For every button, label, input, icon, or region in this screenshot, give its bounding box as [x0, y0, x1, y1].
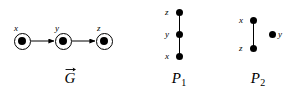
panel-graph-g: x y z G — [0, 0, 140, 99]
caption-poset-p2: P2 — [218, 71, 298, 88]
poset-p2-label-y: y — [278, 30, 282, 39]
poset-p1-node-x — [176, 53, 183, 60]
poset-p2-chain-line — [253, 20, 254, 48]
poset-p2-node-z — [250, 45, 257, 52]
caption-poset-p1-letter: P — [172, 70, 181, 86]
poset-p1-label-z: z — [165, 8, 169, 17]
caption-poset-p1: P1 — [140, 71, 218, 88]
poset-p1-label-x: x — [165, 52, 169, 61]
poset-p1-node-y — [176, 31, 183, 38]
caption-poset-p2-letter: P — [251, 70, 260, 86]
panel-poset-p1: z y x P1 — [140, 0, 218, 99]
graph-node-label-x: x — [14, 24, 18, 33]
poset-p2-node-y-isolated — [269, 31, 276, 38]
caption-graph-g-letter: G — [65, 70, 76, 86]
panel-poset-p2: x z y P2 — [218, 0, 298, 99]
figure-directed-graph-and-posets: x y z G z y x P1 x — [0, 0, 298, 99]
graph-node-x — [14, 33, 31, 50]
poset-p2-label-x: x — [239, 16, 243, 25]
caption-poset-p1-subscript: 1 — [181, 77, 186, 88]
caption-graph-g: G — [0, 71, 140, 86]
poset-p1-label-y: y — [165, 30, 169, 39]
graph-node-y — [55, 33, 72, 50]
poset-p2-label-z: z — [239, 44, 243, 53]
caption-graph-g-text-wrap: G — [65, 71, 76, 86]
poset-p2-node-x — [250, 17, 257, 24]
graph-node-z — [96, 33, 113, 50]
caption-poset-p2-subscript: 2 — [260, 77, 265, 88]
graph-node-label-z: z — [97, 24, 101, 33]
graph-node-label-y: y — [55, 24, 59, 33]
poset-p1-node-z — [176, 9, 183, 16]
